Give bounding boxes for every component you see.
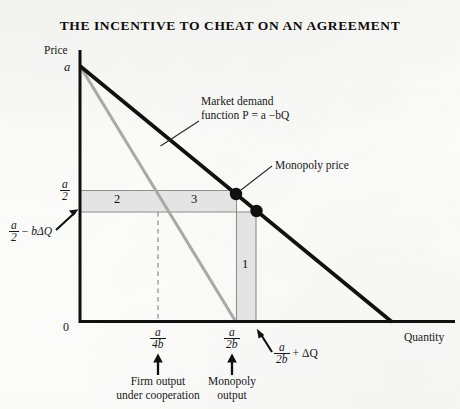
demand-label-leader-line	[161, 121, 200, 146]
market-demand-annotation-line2: function P = a −bQ	[201, 109, 289, 123]
x-tick-a-over-2b: a 2b	[224, 327, 240, 351]
minus-operator: −	[21, 225, 30, 239]
b-delta-q-term: bΔQ	[31, 225, 52, 239]
market-demand-annotation-line1: Market demand	[201, 95, 289, 109]
x-tick-a-over-2b-plus-dq: a 2b + ΔQ	[274, 341, 318, 366]
monopoly-output-caption-line2: output	[182, 389, 282, 403]
monopoly-price-point	[230, 188, 242, 200]
monopoly-output-up-arrow	[227, 354, 237, 376]
y-axis-label: Price	[44, 44, 68, 58]
fraction-a-over-4b: a 4b	[150, 327, 166, 351]
monopoly-price-leader-line	[241, 166, 272, 190]
x-tick-a-over-4b: a 4b	[150, 327, 166, 351]
region-2-label: 2	[114, 192, 120, 207]
monopoly-price-annotation: Monopoly price	[275, 159, 349, 173]
cooperative-output-up-arrow	[153, 354, 163, 376]
market-demand-annotation: Market demand function P = a −bQ	[201, 95, 289, 122]
left-price-arrow	[56, 209, 79, 230]
region-1-label: 1	[242, 257, 248, 272]
origin-label: 0	[63, 320, 69, 334]
cheating-price-point	[250, 205, 262, 217]
y-intercept-label: a	[64, 60, 70, 75]
y-tick-a-over-2-minus-bdq: a 2 − bΔQ	[9, 219, 52, 244]
demand-symbol-bq: bQ	[275, 109, 289, 121]
region-3-label: 3	[191, 192, 197, 207]
demand-function-word: function	[201, 109, 239, 121]
plus-operator: +	[292, 347, 301, 361]
figure-container: THE INCENTIVE TO CHEAT ON AN AGREEMENT	[0, 0, 460, 409]
fraction-a-over-2: a 2	[60, 179, 70, 203]
cheating-output-arrow	[257, 329, 272, 352]
delta-q-term: ΔQ	[302, 347, 318, 361]
fraction-a-over-2-b: a 2	[9, 220, 19, 244]
monopoly-output-caption: Monopoly output	[182, 375, 282, 402]
fraction-a-over-2b-second: a 2b	[274, 342, 290, 366]
monopoly-output-caption-line1: Monopoly	[182, 375, 282, 389]
x-axis-label: Quantity	[404, 331, 444, 345]
fraction-a-over-2b: a 2b	[224, 327, 240, 351]
y-tick-a-over-2: a 2	[60, 179, 70, 203]
